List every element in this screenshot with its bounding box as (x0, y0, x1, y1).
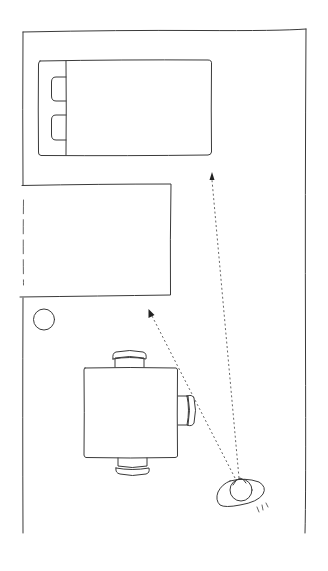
person-shoulders (217, 479, 264, 506)
sightlines (149, 172, 240, 478)
wall-top (23, 29, 306, 32)
table-top (84, 368, 178, 459)
chair-top (113, 351, 146, 368)
chair-bottom-back (116, 468, 149, 476)
arrowhead-to-bed (210, 172, 215, 180)
cabinet (20, 184, 171, 297)
round-object (34, 309, 55, 330)
chair-bottom-seat (118, 458, 147, 468)
chair-bottom (116, 458, 149, 476)
arrowhead-to-cabinet (149, 309, 155, 318)
wall-right (305, 29, 306, 533)
bed (38, 60, 211, 156)
sightline-to-bed (212, 180, 239, 478)
cabinet-outline (20, 184, 171, 297)
motion-mark-3 (266, 503, 268, 507)
pillow-2 (52, 115, 67, 140)
pillow-1 (52, 77, 67, 101)
sightline-to-cabinet (152, 316, 235, 478)
bed-frame (38, 60, 211, 156)
floor-plan-diagram: Room floor plan sketch with sightline ar… (0, 0, 328, 571)
person-head (230, 479, 252, 501)
motion-mark-1 (257, 507, 259, 512)
floor-plan-canvas (0, 0, 328, 571)
dining-table (84, 351, 196, 476)
chair-right (178, 395, 196, 425)
person (217, 478, 268, 512)
motion-mark-2 (262, 505, 263, 510)
